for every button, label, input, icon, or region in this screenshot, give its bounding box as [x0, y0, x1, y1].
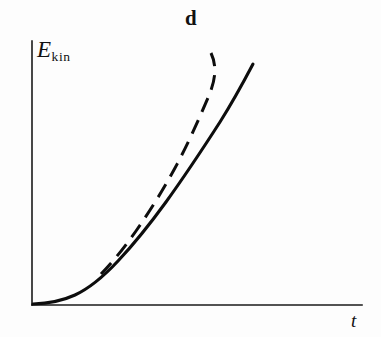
y-axis-label: Ekin: [37, 38, 71, 63]
solid-energy-curve: [33, 64, 253, 304]
y-axis-label-subscript: kin: [52, 49, 71, 64]
dashed-energy-curve: [101, 53, 215, 274]
x-axis-label: t: [351, 311, 356, 330]
panel-label: d: [185, 8, 197, 29]
figure-panel: Ekin t d: [0, 0, 381, 337]
y-axis-label-symbol: E: [37, 37, 51, 62]
